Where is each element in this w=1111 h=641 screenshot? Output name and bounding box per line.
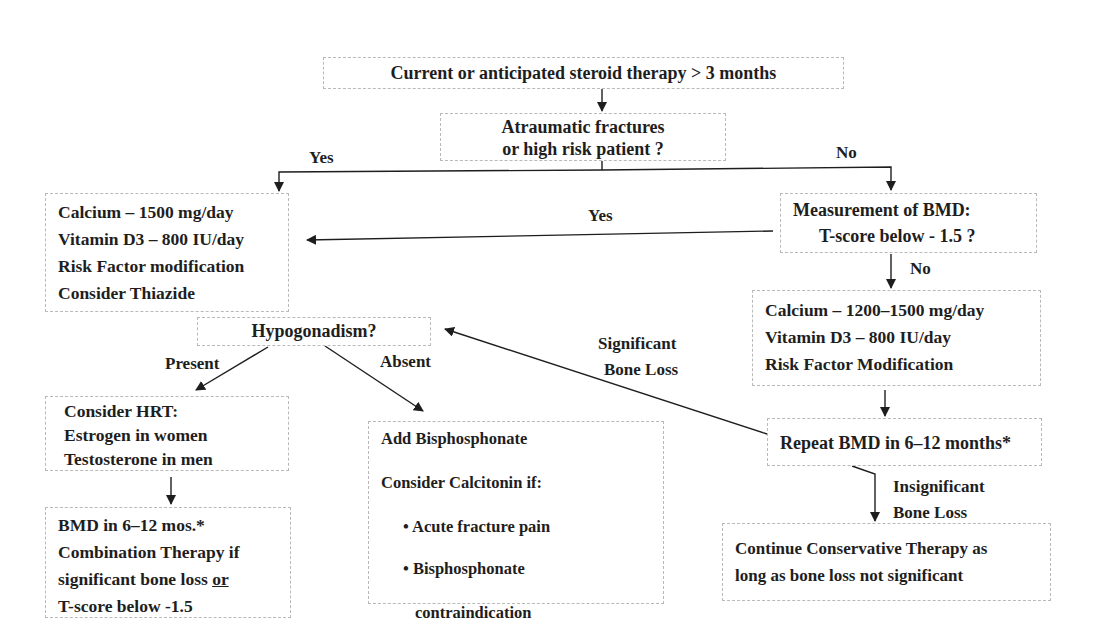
node-line: Continue Conservative Therapy as xyxy=(735,535,1050,562)
node-line: Consider Thiazide xyxy=(58,280,288,307)
arrow-insignificant-loss xyxy=(852,466,875,521)
bullet-item: • Acute fracture pain xyxy=(381,516,663,538)
bmd-question-node: Measurement of BMD: T-score below - 1.5 … xyxy=(780,193,1037,253)
low-risk-treatment-node: Calcium – 1200–1500 mg/day Vitamin D3 – … xyxy=(752,290,1041,386)
start-node-text: Current or anticipated steroid therapy >… xyxy=(391,63,777,83)
bisphosphonate-node: Add Bisphosphonate Consider Calcitonin i… xyxy=(368,421,664,604)
bullet-item: • Bisphosphonate xyxy=(381,558,663,580)
label-line: Insignificant xyxy=(893,474,985,500)
label-present: Present xyxy=(165,354,219,374)
label-insignificant-loss: Insignificant Bone Loss xyxy=(893,474,985,526)
bullet-icon: • xyxy=(403,559,409,578)
high-risk-treatment-node: Calcium – 1500 mg/day Vitamin D3 – 800 I… xyxy=(45,193,289,312)
hrt-node: Consider HRT: Estrogen in women Testoste… xyxy=(45,396,289,471)
label-significant-loss: Significant Bone Loss xyxy=(598,331,678,383)
node-line: Estrogen in women xyxy=(64,423,288,447)
node-line: Vitamin D3 – 800 IU/day xyxy=(58,226,288,253)
label-yes-risk: Yes xyxy=(309,148,334,168)
node-line: Measurement of BMD: xyxy=(793,197,1036,223)
label-yes-bmd: Yes xyxy=(588,206,613,226)
hypogonadism-question-node: Hypogonadism? xyxy=(197,317,431,346)
label-line: Bone Loss xyxy=(893,500,985,526)
label-no-risk: No xyxy=(836,143,857,163)
arrow-yes-bmd xyxy=(307,231,773,240)
node-line: Testosterone in men xyxy=(64,447,288,471)
arrow-no-risk xyxy=(602,167,891,190)
node-line: Vitamin D3 – 800 IU/day xyxy=(765,324,1040,351)
label-line: Bone Loss xyxy=(598,357,678,383)
node-line: Combination Therapy if xyxy=(58,539,290,566)
node-line: BMD in 6–12 mos.* xyxy=(58,512,290,539)
node-text: Hypogonadism? xyxy=(251,321,376,341)
node-line: Atraumatic fractures xyxy=(441,116,725,138)
start-node: Current or anticipated steroid therapy >… xyxy=(323,57,844,89)
label-line: Significant xyxy=(598,331,678,357)
underlined-or: or xyxy=(212,569,229,589)
node-line: or high risk patient ? xyxy=(441,138,725,160)
bullet-icon: • xyxy=(403,517,409,536)
continue-therapy-node: Continue Conservative Therapy as long as… xyxy=(722,523,1051,601)
node-line: Consider Calcitonin if: xyxy=(381,472,663,494)
node-line: Calcium – 1200–1500 mg/day xyxy=(765,297,1040,324)
node-line-text: significant bone loss xyxy=(58,569,212,589)
node-line: Consider HRT: xyxy=(64,399,288,423)
label-no-bmd: No xyxy=(910,259,931,279)
arrow-yes-risk xyxy=(279,170,602,191)
node-line: T-score below - 1.5 ? xyxy=(793,223,1036,249)
node-line: T-score below -1.5 xyxy=(58,593,290,620)
bullet-continuation: contraindication xyxy=(381,602,663,624)
risk-question-node: Atraumatic fractures or high risk patien… xyxy=(440,113,726,161)
repeat-bmd-node: Repeat BMD in 6–12 months* xyxy=(767,418,1042,466)
bullet-text: Acute fracture pain xyxy=(412,517,550,536)
node-line: Add Bisphosphonate xyxy=(381,428,663,450)
node-line: Risk Factor Modification xyxy=(765,351,1040,378)
node-line: significant bone loss or xyxy=(58,566,290,593)
node-line: Calcium – 1500 mg/day xyxy=(58,199,288,226)
bullet-text: Bisphosphonate xyxy=(413,559,525,578)
node-line: Risk Factor modification xyxy=(58,253,288,280)
node-line: long as bone loss not significant xyxy=(735,562,1050,589)
label-absent: Absent xyxy=(380,352,431,372)
node-text: Repeat BMD in 6–12 months* xyxy=(780,433,1011,453)
followup-bmd-node: BMD in 6–12 mos.* Combination Therapy if… xyxy=(45,507,291,618)
